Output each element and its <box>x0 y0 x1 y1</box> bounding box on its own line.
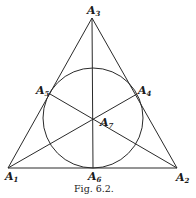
label-a3: A3 <box>86 4 101 18</box>
label-a1: A1 <box>4 170 18 184</box>
label-a4: A4 <box>137 84 152 98</box>
line-a1-a4 <box>8 94 137 168</box>
label-a2: A2 <box>175 171 190 185</box>
line-a2-a5 <box>50 94 177 168</box>
figure-caption: Fig. 6.2. <box>74 183 114 194</box>
label-a7: A7 <box>99 116 114 130</box>
label-a6: A6 <box>87 170 102 184</box>
fano-plane-diagram: A3 A5 A4 A7 A1 A6 A2 Fig. 6.2. <box>0 0 196 198</box>
label-a5: A5 <box>35 84 50 98</box>
line-a3-a6 <box>92 18 93 168</box>
